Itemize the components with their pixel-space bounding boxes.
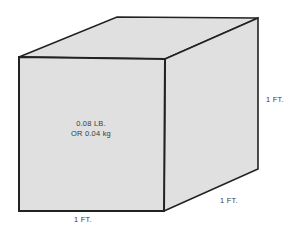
weight-label: 0.08 LB. OR 0.04 kg — [60, 119, 122, 139]
weight-label-kg: OR 0.04 kg — [60, 129, 122, 139]
width-dimension-label: 1 FT. — [74, 216, 92, 224]
cube-drawing — [0, 0, 305, 235]
weight-label-lb: 0.08 LB. — [60, 119, 122, 129]
height-dimension-label: 1 FT. — [266, 96, 284, 104]
cube-diagram: 0.08 LB. OR 0.04 kg 1 FT. 1 FT. 1 FT. — [0, 0, 305, 235]
depth-dimension-label: 1 FT. — [220, 197, 238, 205]
